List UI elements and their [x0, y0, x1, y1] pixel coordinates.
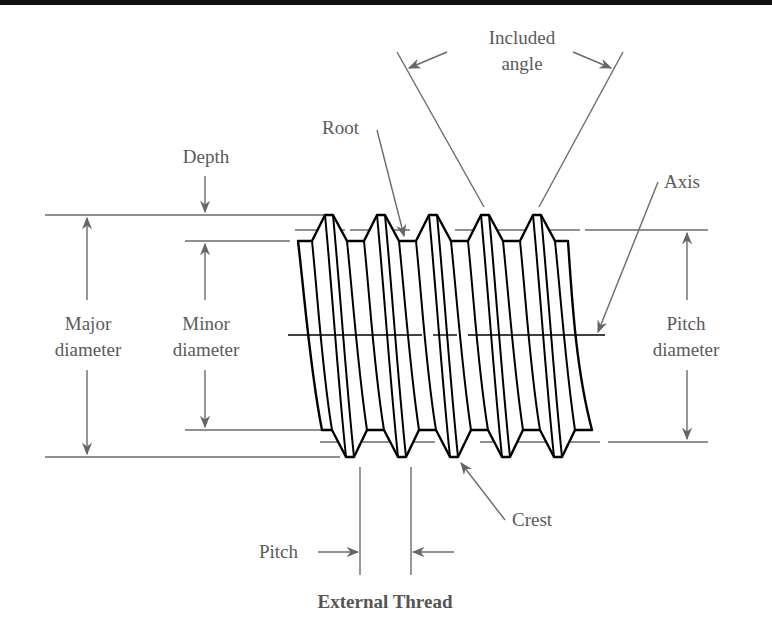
crest-leader-arrow	[461, 463, 505, 520]
included-angle-label: Included	[489, 27, 556, 48]
pitch-label: Pitch	[259, 541, 299, 562]
depth-label: Depth	[183, 146, 230, 167]
included-angle-right-line	[539, 52, 623, 207]
included-angle-right-arrow	[573, 52, 611, 68]
pitch-diameter-label-line2: diameter	[653, 339, 720, 360]
major-diameter-label: Major	[65, 313, 112, 334]
axis-leader-arrow	[598, 182, 658, 332]
figure-caption: External Thread	[318, 591, 453, 612]
minor-diameter-label-line2: diameter	[173, 339, 240, 360]
minor-diameter-label: Minor	[182, 313, 230, 334]
included-angle-left-arrow	[409, 52, 447, 68]
external-thread-diagram: Included angle Root Depth Axis Major dia…	[0, 0, 772, 632]
axis-label: Axis	[664, 171, 700, 192]
pitch-diameter-label: Pitch	[666, 313, 706, 334]
included-angle-label-line2: angle	[501, 53, 542, 74]
thread-body	[298, 215, 592, 457]
crest-label: Crest	[512, 509, 553, 530]
major-diameter-label-line2: diameter	[55, 339, 122, 360]
root-label: Root	[322, 117, 360, 138]
included-angle-left-line	[397, 52, 484, 207]
